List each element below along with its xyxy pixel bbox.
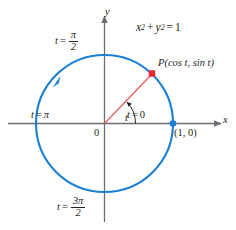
circle-equation-label: x2+y2=1 bbox=[136, 22, 181, 34]
t-half-pi-denominator: 2 bbox=[69, 42, 78, 53]
t-pi-equals: = bbox=[34, 110, 44, 121]
t-half-pi-equals: = bbox=[58, 36, 68, 47]
coordinate-one-zero-label: (1, 0) bbox=[174, 128, 197, 139]
t-three-half-pi-equals: = bbox=[60, 202, 70, 213]
equation-equals: = bbox=[165, 22, 176, 34]
t-zero-value: 0 bbox=[140, 110, 145, 121]
t-three-half-pi-denominator: 2 bbox=[73, 208, 82, 219]
t-half-pi-fraction: π2 bbox=[69, 30, 78, 52]
t-zero-equals: = bbox=[130, 110, 140, 121]
point-one-zero-marker bbox=[170, 120, 177, 127]
unit-circle-figure: x2+y2=1 y x t=π2 t=3π2 t=π t=0 0 t P(cos… bbox=[0, 0, 236, 230]
y-axis-label: y bbox=[105, 7, 110, 18]
label-t-half-pi: t=π2 bbox=[55, 30, 78, 52]
origin-label: 0 bbox=[94, 128, 99, 139]
point-p-marker bbox=[149, 70, 155, 76]
label-t-pi: t=π bbox=[31, 110, 49, 121]
angle-label-t: t bbox=[125, 113, 128, 124]
x-axis-label: x bbox=[223, 115, 228, 126]
equation-plus: + bbox=[145, 22, 156, 34]
t-half-pi-numerator: π bbox=[69, 30, 78, 41]
t-pi-value: π bbox=[44, 110, 49, 121]
t-three-half-pi-numerator: 3π bbox=[71, 196, 86, 207]
point-p-label: P(cos t, sin t) bbox=[158, 58, 214, 69]
label-t-three-half-pi: t=3π2 bbox=[57, 196, 85, 218]
equation-rhs: 1 bbox=[175, 22, 181, 34]
t-three-half-pi-fraction: 3π2 bbox=[71, 196, 86, 218]
label-t-zero: t=0 bbox=[127, 110, 145, 121]
